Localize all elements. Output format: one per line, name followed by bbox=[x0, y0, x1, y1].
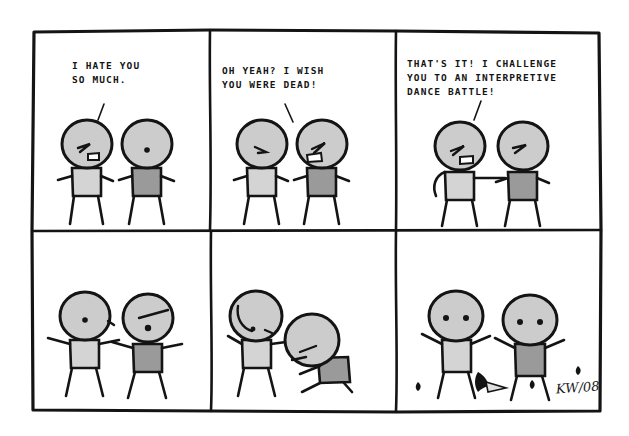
panel-3-dialogue: THAT'S IT! I CHALLENGE YOU TO AN INTERPR… bbox=[407, 57, 597, 99]
panel-2-dialogue: OH YEAH? I WISH YOU WERE DEAD! bbox=[222, 64, 387, 92]
panel-1-dialogue: I HATE YOU SO MUCH. bbox=[72, 59, 202, 87]
artist-signature: KW/08 bbox=[556, 378, 600, 396]
comic-strip: .ink { stroke:#141414; fill:none; stroke… bbox=[0, 0, 629, 436]
